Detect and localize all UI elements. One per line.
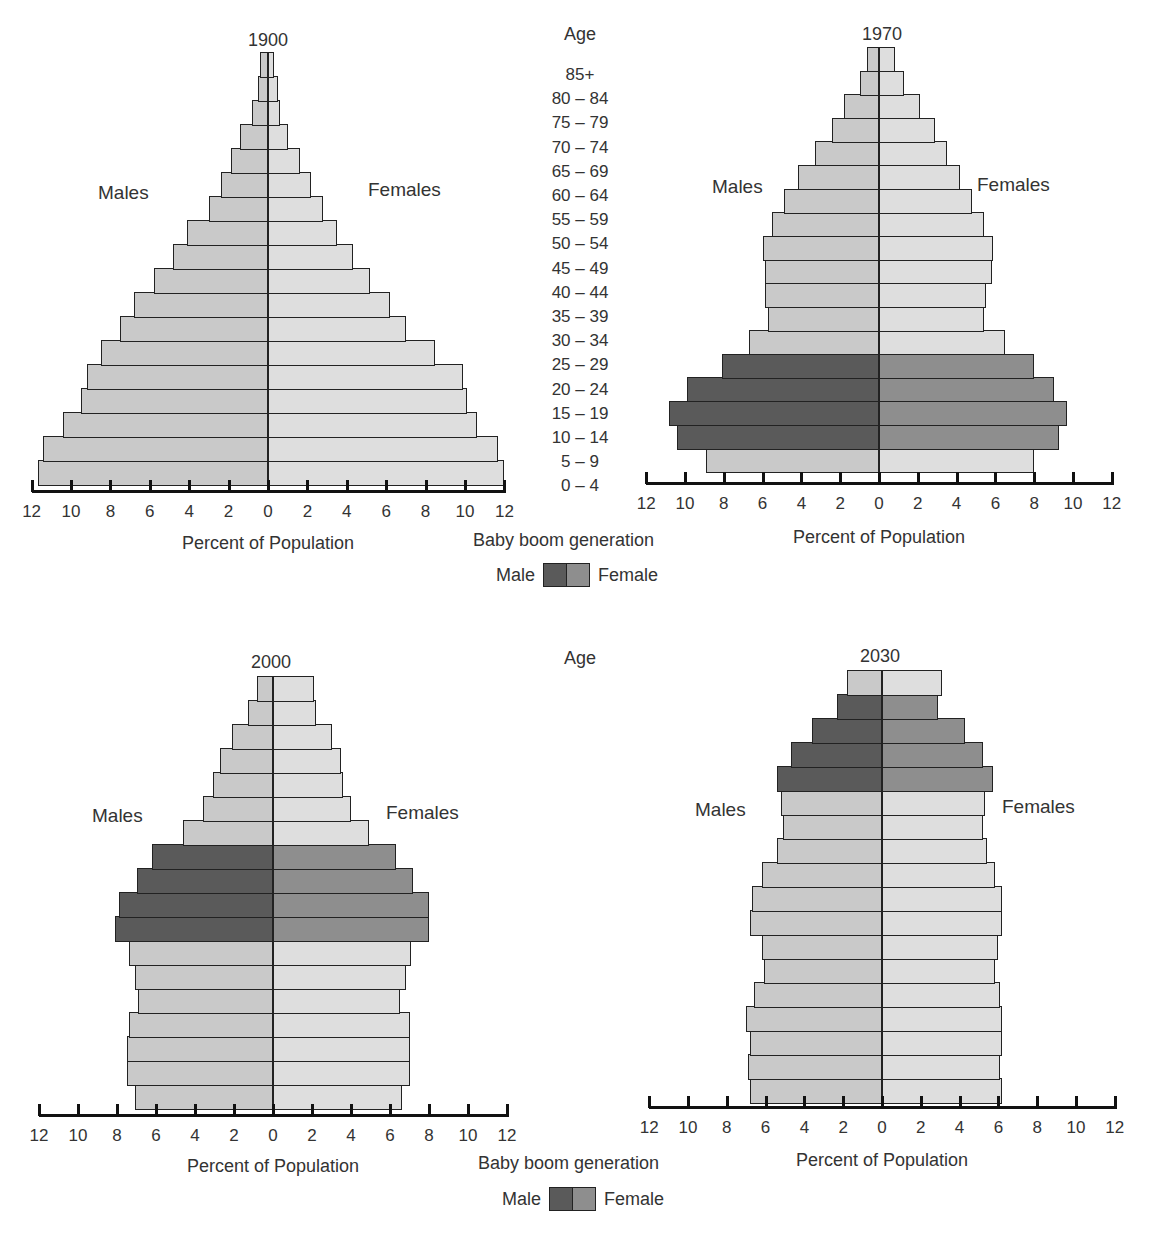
male-bar-6569 <box>815 141 879 166</box>
male-bar-6064 <box>221 172 268 198</box>
x-tick-label: 4 <box>190 1126 199 1146</box>
female-bar-2529 <box>268 340 435 366</box>
age-label: 60 – 64 <box>520 186 640 206</box>
female-bar-2024 <box>879 354 1034 379</box>
female-bar-04 <box>273 1084 402 1110</box>
male-bar-8084 <box>837 694 882 720</box>
female-bar-7074 <box>879 118 935 143</box>
x-tick-label: 12 <box>1105 1118 1124 1138</box>
male-bar-7579 <box>844 94 879 119</box>
x-axis-tick <box>149 480 152 492</box>
x-tick-label: 12 <box>495 502 514 522</box>
male-bar-2529 <box>101 340 268 366</box>
male-bar-6569 <box>777 766 882 792</box>
x-axis-tick <box>155 1104 158 1116</box>
x-tick-label: 4 <box>797 494 806 514</box>
female-bar-59 <box>273 1060 410 1086</box>
males-label: Males <box>695 799 746 821</box>
female-bar-6064 <box>273 796 351 822</box>
x-tick-label: 2 <box>913 494 922 514</box>
female-bar-2024 <box>882 982 1000 1008</box>
female-bar-7074 <box>882 742 983 768</box>
x-axis-tick <box>1072 472 1075 484</box>
female-bar-6064 <box>882 790 985 816</box>
male-bar-1014 <box>63 412 268 438</box>
female-bar-4044 <box>882 886 1002 912</box>
female-bar-3034 <box>882 934 998 960</box>
x-tick-label: 10 <box>679 1118 698 1138</box>
legend-caption: Baby boom generation <box>473 530 654 551</box>
x-tick-label: 10 <box>456 502 475 522</box>
x-axis-tick <box>1033 472 1036 484</box>
female-bar-6569 <box>882 766 993 792</box>
x-axis-tick <box>272 1104 275 1116</box>
male-bar-3539 <box>765 283 879 308</box>
x-tick-label: 8 <box>112 1126 121 1146</box>
female-bar-6064 <box>879 165 960 190</box>
age-column-bottom: Age 85+80 – 8475 – 7970 – 7465 – 6960 – … <box>520 648 640 1118</box>
x-tick-label: 10 <box>676 494 695 514</box>
x-axis-tick <box>503 480 506 492</box>
female-bar-1519 <box>268 388 467 414</box>
x-axis-tick <box>311 1104 314 1116</box>
female-bar-8084 <box>268 76 278 102</box>
male-bar-7074 <box>220 748 273 774</box>
x-axis-tick <box>687 1096 690 1108</box>
age-column-title: Age <box>520 648 640 669</box>
male-bar-2024 <box>722 354 879 379</box>
male-bar-85+ <box>257 676 273 702</box>
age-label: 50 – 54 <box>520 234 640 254</box>
x-tick-label: 0 <box>877 1118 886 1138</box>
x-tick-label: 10 <box>459 1126 478 1146</box>
female-bar-5559 <box>879 189 972 214</box>
male-bar-1519 <box>687 377 879 402</box>
x-axis-tick <box>350 1104 353 1116</box>
x-tick-label: 8 <box>722 1118 731 1138</box>
female-bar-2529 <box>879 330 1005 355</box>
x-axis-tick <box>800 472 803 484</box>
x-tick-label: 6 <box>761 1118 770 1138</box>
male-bar-7579 <box>232 724 273 750</box>
x-tick-label: 12 <box>30 1126 49 1146</box>
x-axis-tick <box>385 480 388 492</box>
male-bar-8084 <box>248 700 273 726</box>
male-bar-5054 <box>187 220 268 246</box>
female-bar-4549 <box>879 236 993 261</box>
x-axis-tick <box>116 1104 119 1116</box>
male-bar-5054 <box>152 844 273 870</box>
females-label: Females <box>977 174 1050 196</box>
x-axis-tick <box>77 1104 80 1116</box>
x-axis-tick <box>1036 1096 1039 1108</box>
female-bar-2529 <box>882 958 995 984</box>
age-label: 45 – 49 <box>520 259 640 279</box>
female-bar-04 <box>879 448 1034 473</box>
x-tick-label: 10 <box>1064 494 1083 514</box>
male-bar-59 <box>748 1054 882 1080</box>
x-axis-tick <box>648 1096 651 1108</box>
age-label: 70 – 74 <box>520 138 640 158</box>
male-bar-7579 <box>252 100 268 126</box>
chart-title: 1970 <box>862 24 902 45</box>
x-tick-label: 6 <box>145 502 154 522</box>
males-label: Males <box>98 182 149 204</box>
x-tick-label: 12 <box>498 1126 517 1146</box>
female-bar-8084 <box>273 700 316 726</box>
age-label: 80 – 84 <box>520 89 640 109</box>
x-axis-tick <box>233 1104 236 1116</box>
x-tick-label: 2 <box>838 1118 847 1138</box>
legend: Male Female <box>502 1187 664 1211</box>
x-axis-tick <box>881 1096 884 1108</box>
females-label: Females <box>386 802 459 824</box>
male-bar-6064 <box>781 790 882 816</box>
x-tick-label: 4 <box>346 1126 355 1146</box>
female-bar-5054 <box>882 838 987 864</box>
age-label: 20 – 24 <box>520 380 640 400</box>
female-bar-6569 <box>879 141 947 166</box>
age-column-top: Age 85+80 – 8475 – 7970 – 7465 – 6960 – … <box>520 24 640 494</box>
male-bar-4044 <box>765 259 879 284</box>
x-axis-tick <box>726 1096 729 1108</box>
x-axis-title: Percent of Population <box>796 1150 968 1171</box>
male-bar-04 <box>706 448 879 473</box>
legend-male-boom-swatch <box>544 564 567 586</box>
x-tick-label: 4 <box>952 494 961 514</box>
